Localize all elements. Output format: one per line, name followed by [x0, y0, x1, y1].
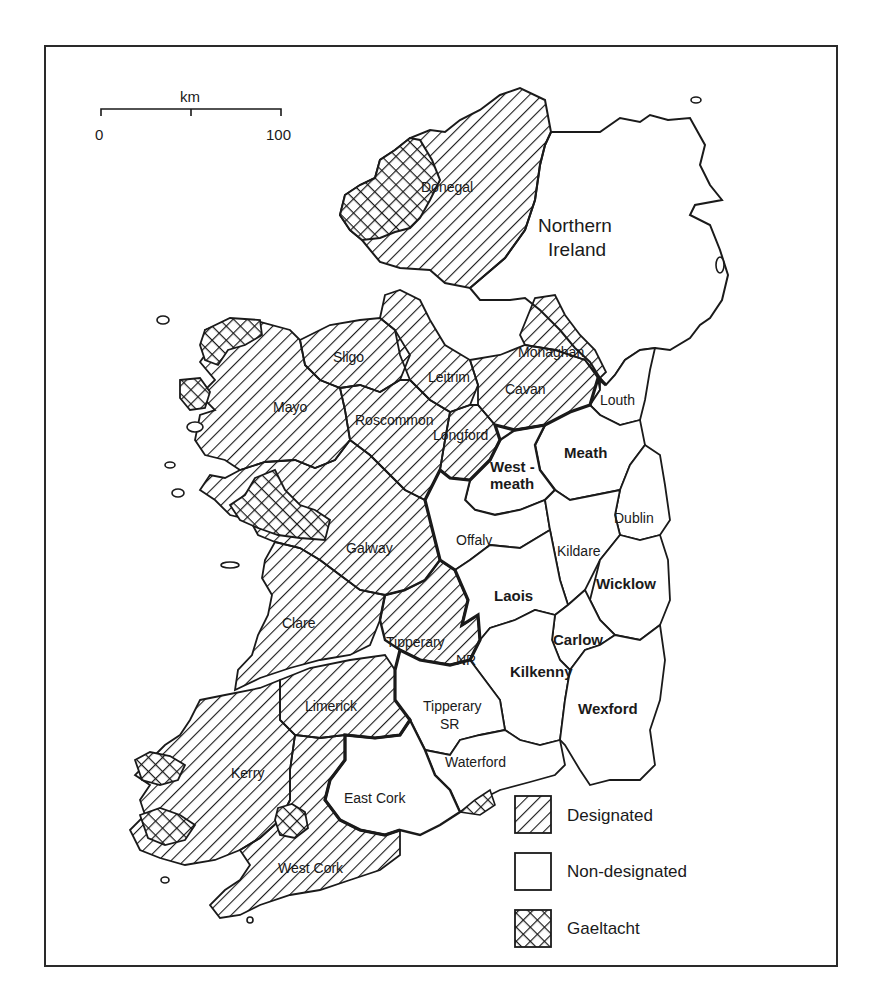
label-clare: Clare: [282, 615, 316, 631]
label-westmeath-2: meath: [490, 475, 534, 492]
legend: Designated Non-designated Gaeltacht: [515, 796, 687, 947]
legend-item-non-designated: Non-designated: [515, 853, 687, 890]
county-limerick: [280, 655, 410, 738]
label-mayo: Mayo: [273, 399, 307, 415]
scale-min-label: 0: [95, 126, 103, 143]
label-northern-ireland-1: Northern: [538, 215, 612, 236]
label-sligo: Sligo: [333, 349, 364, 365]
label-west-cork: West Cork: [278, 860, 344, 876]
label-laois: Laois: [494, 587, 533, 604]
designated-swatch-icon: [515, 796, 551, 833]
label-meath: Meath: [564, 444, 607, 461]
label-waterford: Waterford: [445, 754, 506, 770]
label-kerry: Kerry: [231, 765, 264, 781]
label-cavan: Cavan: [505, 381, 545, 397]
label-carlow: Carlow: [553, 631, 603, 648]
label-tipperary-nr-1: Tipperary: [386, 634, 445, 650]
label-wexford: Wexford: [578, 700, 638, 717]
scale-unit-label: km: [180, 88, 200, 105]
label-louth: Louth: [600, 392, 635, 408]
label-roscommon: Roscommon: [355, 412, 434, 428]
scale-bar: km 0 100: [95, 88, 291, 143]
label-kilkenny: Kilkenny: [510, 663, 573, 680]
label-tipperary-sr-2: SR: [440, 716, 459, 732]
label-donegal: Donegal: [421, 179, 473, 195]
label-westmeath-1: West -: [490, 458, 535, 475]
label-monaghan: Monaghan: [518, 344, 584, 360]
label-galway: Galway: [346, 540, 393, 556]
legend-label-gaeltacht: Gaeltacht: [567, 919, 640, 938]
label-offaly: Offaly: [456, 532, 492, 548]
legend-label-non-designated: Non-designated: [567, 862, 687, 881]
ireland-designated-areas-map: km 0 100: [0, 0, 879, 1000]
gaeltacht-swatch-icon: [515, 910, 551, 947]
non-designated-swatch-icon: [515, 853, 551, 890]
label-east-cork: East Cork: [344, 790, 406, 806]
legend-item-gaeltacht: Gaeltacht: [515, 910, 640, 947]
label-longford: Longford: [433, 427, 488, 443]
legend-label-designated: Designated: [567, 806, 653, 825]
label-limerick: Limerick: [305, 698, 358, 714]
label-northern-ireland-2: Ireland: [548, 239, 606, 260]
scale-max-label: 100: [266, 126, 291, 143]
label-tipperary-sr-1: Tipperary: [423, 698, 482, 714]
gaeltacht-mayo-west: [180, 378, 210, 410]
label-leitrim: Leitrim: [428, 369, 470, 385]
label-dublin: Dublin: [614, 510, 654, 526]
label-kildare: Kildare: [557, 543, 601, 559]
legend-item-designated: Designated: [515, 796, 653, 833]
label-tipperary-nr-2: NR: [456, 652, 476, 668]
label-wicklow: Wicklow: [596, 575, 656, 592]
